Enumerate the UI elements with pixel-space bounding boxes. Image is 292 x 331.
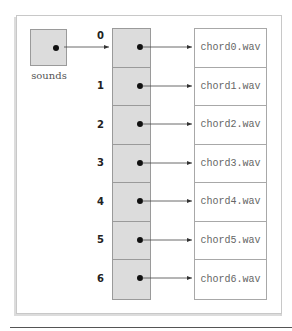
pointer-arrows bbox=[0, 0, 292, 331]
bottom-rule-divider bbox=[10, 327, 292, 328]
